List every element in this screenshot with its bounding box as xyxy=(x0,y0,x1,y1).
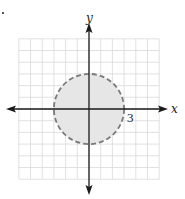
y-axis-label: y xyxy=(85,11,93,25)
coordinate-plane-figure: x y 3 xyxy=(0,0,185,199)
x-axis-label: x xyxy=(171,102,178,116)
scan-artifact xyxy=(2,12,4,14)
x-tick-label-3: 3 xyxy=(127,110,134,125)
